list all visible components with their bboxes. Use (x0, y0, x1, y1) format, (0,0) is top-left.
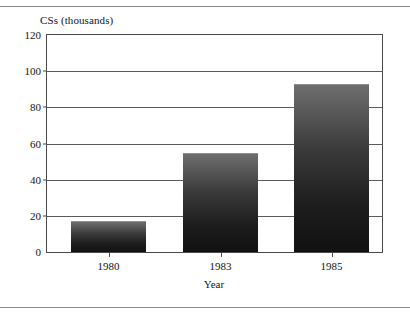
x-tick-mark (109, 252, 110, 257)
figure-canvas: CSs (thousands) 020406080100120 19801983… (0, 0, 410, 319)
y-tick-label: 120 (25, 29, 42, 41)
y-tick-label: 100 (25, 65, 42, 77)
figure-bottom-rule (0, 307, 410, 308)
bar (183, 153, 258, 252)
y-axis-title: CSs (thousands) (40, 14, 113, 26)
y-tick-label: 40 (30, 174, 41, 186)
y-tick-label: 20 (30, 210, 41, 222)
x-tick-label: 1985 (321, 260, 343, 272)
plot-area: 020406080100120 198019831985 (46, 34, 383, 253)
bar-series (47, 35, 382, 252)
x-axis-title-text: Year (204, 278, 224, 290)
x-tick-label: 1980 (98, 260, 120, 272)
x-axis-title: Year (0, 278, 410, 290)
bar (71, 221, 146, 252)
x-tick-mark (221, 252, 222, 257)
figure-top-rule (0, 6, 410, 7)
bar (294, 84, 369, 252)
y-tick-label: 0 (36, 246, 42, 258)
y-tick-label: 80 (30, 101, 41, 113)
x-tick-mark (332, 252, 333, 257)
x-tick-label: 1983 (210, 260, 232, 272)
y-tick-label: 60 (30, 138, 41, 150)
